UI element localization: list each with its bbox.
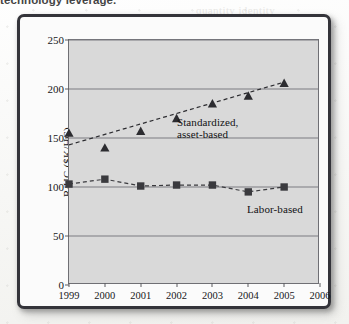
x-tick-label: 2005: [274, 290, 295, 301]
series-annotation-label: Standardized, asset-based: [177, 116, 238, 141]
data-point-marker: [137, 182, 144, 189]
data-point-marker: [173, 181, 180, 188]
caption-text: technology leverage.: [0, 0, 230, 6]
page-caption-fragment: technology leverage.: [0, 0, 230, 8]
data-point-marker: [100, 143, 109, 151]
figure-screenshot: technology leverage. quantity identityth…: [0, 0, 349, 324]
figure-card: R/HC ($K/HC) 050100150200250 19992000200…: [17, 14, 331, 309]
data-point-marker: [65, 180, 72, 187]
data-point-marker: [101, 175, 108, 182]
data-point-marker: [208, 99, 217, 107]
x-tick-label: 2000: [94, 290, 115, 301]
x-tick-label: 2002: [166, 290, 187, 301]
y-tick-label: 200: [48, 83, 65, 95]
x-tick-label: 2003: [202, 290, 223, 301]
data-point-marker: [280, 183, 287, 190]
x-tick-label: 1999: [59, 290, 80, 301]
chart-plot-wrapper: R/HC ($K/HC) 050100150200250 19992000200…: [68, 39, 319, 284]
y-tick-label: 250: [48, 34, 65, 46]
x-tick-label: 2004: [238, 290, 259, 301]
x-tick-label: 2001: [130, 290, 151, 301]
y-tick-label: 100: [48, 181, 65, 193]
y-tick-label: 50: [53, 230, 64, 242]
series-annotation-label: Labor-based: [247, 203, 303, 215]
chart-series-layer: [69, 40, 320, 285]
x-tick-label: 2006: [310, 290, 331, 301]
data-point-marker: [245, 188, 252, 195]
data-point-marker: [244, 91, 253, 99]
y-tick-label: 150: [48, 132, 65, 144]
chart-plot-area: 050100150200250 199920002001200220032004…: [68, 39, 319, 284]
data-point-marker: [209, 181, 216, 188]
data-point-marker: [136, 127, 145, 135]
